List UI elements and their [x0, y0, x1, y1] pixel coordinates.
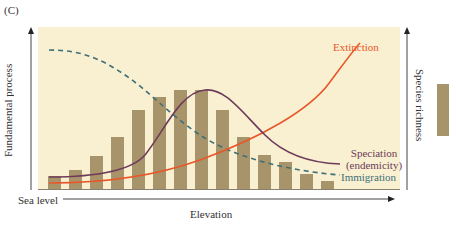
- arrow-right-icon: [388, 196, 395, 202]
- immigration-label: Immigration: [341, 171, 396, 183]
- speciation-sublabel: (endemicity): [342, 159, 406, 171]
- arrow-up-icon: [28, 27, 34, 34]
- x-origin-label: Sea level: [18, 194, 58, 206]
- species-richness-swatch: [437, 84, 449, 136]
- speciation-label: Speciation: [346, 147, 402, 159]
- bar: [300, 174, 313, 189]
- bar: [321, 181, 334, 189]
- bar: [153, 97, 166, 189]
- arrow-up-icon: [404, 27, 410, 34]
- bar: [258, 155, 271, 189]
- chart-canvas: [0, 0, 456, 230]
- extinction-label: Extinction: [333, 41, 379, 53]
- x-axis-title: Elevation: [190, 208, 232, 220]
- y-axis-right-title: Species richness: [410, 55, 426, 155]
- bar: [90, 156, 103, 189]
- y-axis-left-title: Fundamental process: [2, 40, 18, 180]
- bar: [195, 90, 208, 189]
- bar: [111, 137, 124, 189]
- bar: [69, 170, 82, 189]
